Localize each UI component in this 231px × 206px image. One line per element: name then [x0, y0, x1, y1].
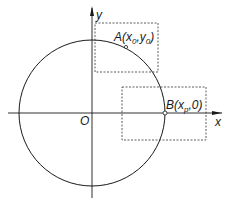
x-axis-label: x [214, 115, 222, 129]
y-axis-label: y [95, 8, 103, 22]
diagram-canvas: y x O A(x0,y0) B(xp,0) [0, 0, 231, 206]
point-a-label: A(x0,y0) [113, 30, 154, 46]
origin-label: O [80, 114, 89, 128]
point-a [124, 45, 127, 48]
point-b-label: B(xp,0) [166, 98, 202, 114]
y-axis-arrow-icon [90, 6, 94, 16]
